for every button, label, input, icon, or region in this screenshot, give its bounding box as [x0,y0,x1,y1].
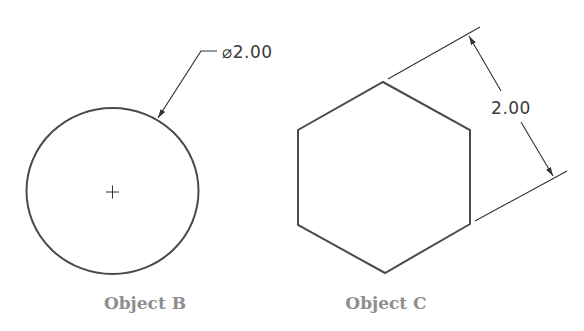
extension-lines [388,27,567,221]
object-b: ⌀2.00 Object B [27,42,273,313]
technical-drawing: ⌀2.00 Object B 2.00 Object C [0,0,584,331]
object-c-label: Object C [345,293,426,313]
object-c: 2.00 Object C [298,27,567,313]
drawing-svg: ⌀2.00 Object B 2.00 Object C [0,0,584,331]
diameter-dimension-text: ⌀2.00 [222,42,273,62]
center-mark-icon [106,186,119,199]
diameter-leader [158,51,217,118]
hexagon-outline [298,82,470,273]
object-b-label: Object B [104,293,186,313]
across-flats-dimension-text: 2.00 [491,98,531,118]
